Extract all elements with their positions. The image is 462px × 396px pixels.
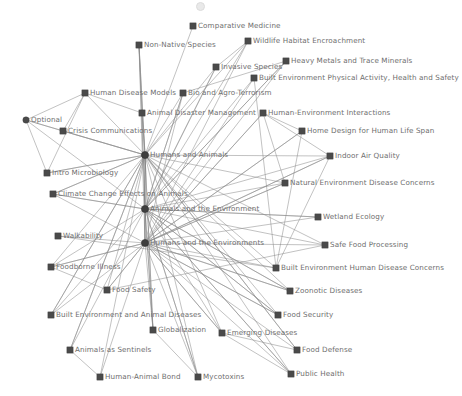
graph-edge: [70, 350, 100, 377]
graph-edge: [63, 131, 145, 155]
graph-node-bio-agro-terrorism[interactable]: [180, 90, 186, 96]
graph-edge: [153, 330, 198, 377]
node-label-human-disease-models: Human Disease Models: [90, 89, 176, 97]
node-label-food-safety: Food Safety: [112, 286, 156, 294]
node-label-humans-and-animals: Humans and Animals: [150, 151, 228, 159]
graph-node-foodborne-illness[interactable]: [48, 264, 54, 270]
node-label-walkability: Walkability: [63, 232, 103, 240]
graph-edge: [276, 156, 330, 268]
graph-node-public-health[interactable]: [288, 371, 294, 377]
graph-node-wildlife-habitat-encroachment[interactable]: [245, 38, 251, 44]
node-label-foodborne-illness: Foodborne Illness: [56, 263, 121, 271]
graph-edge: [145, 155, 290, 291]
graph-edge: [51, 243, 145, 315]
graph-node-human-disease-models[interactable]: [82, 90, 88, 96]
node-label-globalization: Globalization: [158, 326, 206, 334]
node-label-climate-change-effects-animals: Climate Change Effects on Animals: [58, 190, 188, 198]
graph-node-animals-and-the-environment[interactable]: [141, 205, 148, 212]
graph-node-zoonotic-diseases[interactable]: [287, 288, 293, 294]
graph-edge: [145, 243, 222, 333]
node-label-built-env-animal-diseases: Built Environment and Animal Diseases: [56, 311, 201, 319]
graph-node-human-animal-bond[interactable]: [97, 374, 103, 380]
node-label-invasive-species: Invasive Species: [221, 63, 282, 71]
graph-edge: [145, 93, 183, 155]
graph-node-climate-change-effects-animals[interactable]: [50, 191, 56, 197]
graph-edge: [263, 113, 330, 156]
graph-edge: [145, 155, 278, 315]
graph-node-mycotoxins[interactable]: [195, 374, 201, 380]
graph-node-invasive-species[interactable]: [213, 64, 219, 70]
graph-node-emerging-diseases[interactable]: [219, 330, 225, 336]
graph-node-optional[interactable]: [23, 117, 29, 123]
node-label-animals-and-the-environment: Animals and the Environment: [150, 205, 259, 213]
graph-edge: [222, 333, 291, 374]
node-label-mycotoxins: Mycotoxins: [203, 373, 244, 381]
node-label-built-env-physical-activity: Built Environment Physical Activity, Hea…: [259, 74, 459, 82]
node-label-heavy-metals-trace-minerals: Heavy Metals and Trace Minerals: [291, 57, 412, 65]
graph-node-walkability[interactable]: [55, 233, 61, 239]
graph-edge: [276, 131, 302, 268]
graph-node-globalization[interactable]: [150, 327, 156, 333]
node-label-animal-disaster-management: Animal Disaster Management: [147, 109, 256, 117]
node-label-food-security: Food Security: [283, 311, 333, 319]
network-graph-canvas: Comparative MedicineNon-Native SpeciesWi…: [0, 0, 462, 396]
graph-node-humans-and-the-environments[interactable]: [141, 239, 148, 246]
graph-node-food-security[interactable]: [275, 312, 281, 318]
node-label-natural-env-disease-concerns: Natural Environment Disease Concerns: [290, 179, 435, 187]
node-label-comparative-medicine: Comparative Medicine: [198, 22, 281, 30]
node-label-emerging-diseases: Emerging Diseases: [227, 329, 297, 337]
node-label-indoor-air-quality: Indoor Air Quality: [335, 152, 400, 160]
graph-edge: [145, 131, 302, 243]
node-label-optional: Optional: [31, 116, 62, 124]
node-label-safe-food-processing: Safe Food Processing: [330, 241, 408, 249]
node-label-zoonotic-diseases: Zoonotic Diseases: [295, 287, 362, 295]
graph-node-food-safety[interactable]: [104, 287, 110, 293]
node-label-public-health: Public Health: [296, 370, 344, 378]
node-label-humans-and-the-environments: Humans and the Environments: [150, 239, 264, 247]
graph-node-animals-as-sentinels[interactable]: [67, 347, 73, 353]
node-label-food-defense: Food Defense: [302, 346, 352, 354]
graph-node-wetland-ecology[interactable]: [315, 214, 321, 220]
node-label-intro-microbiology: Intro Microbiology: [52, 169, 118, 177]
graph-node-safe-food-processing[interactable]: [322, 242, 328, 248]
graph-node-built-env-animal-diseases[interactable]: [48, 312, 54, 318]
node-label-bio-agro-terrorism: Bio and Agro-Terrorism: [188, 89, 272, 97]
node-label-home-design-human-life-span: Home Design for Human Life Span: [307, 127, 434, 135]
node-label-built-env-human-disease-concerns: Built Environment Human Disease Concerns: [281, 264, 444, 272]
graph-node-intro-microbiology[interactable]: [44, 170, 50, 176]
graph-edge: [145, 243, 278, 315]
graph-edge: [85, 93, 145, 155]
graph-node-built-env-physical-activity[interactable]: [251, 75, 257, 81]
graph-node-animal-disaster-management[interactable]: [139, 110, 145, 116]
node-label-animals-as-sentinels: Animals as Sentinels: [75, 346, 151, 354]
graph-node-indoor-air-quality[interactable]: [327, 153, 333, 159]
graph-node-heavy-metals-trace-minerals[interactable]: [283, 58, 289, 64]
graph-edge: [145, 41, 248, 155]
graph-edge: [145, 209, 278, 315]
node-label-wetland-ecology: Wetland Ecology: [323, 213, 384, 221]
graph-node-comparative-medicine[interactable]: [190, 23, 196, 29]
graph-node-human-environment-interactions[interactable]: [260, 110, 266, 116]
graph-node-food-defense[interactable]: [294, 347, 300, 353]
graph-node-humans-and-animals[interactable]: [141, 151, 148, 158]
graph-edge: [145, 243, 276, 268]
graph-node-home-design-human-life-span[interactable]: [299, 128, 305, 134]
graph-edge: [145, 41, 248, 243]
node-label-human-animal-bond: Human-Animal Bond: [105, 373, 181, 381]
graph-edge: [145, 243, 291, 374]
node-label-human-environment-interactions: Human-Environment Interactions: [268, 109, 390, 117]
graph-node-crisis-communications[interactable]: [60, 128, 66, 134]
graph-edge: [263, 113, 285, 183]
graph-node-non-native-species[interactable]: [136, 42, 142, 48]
node-label-crisis-communications: Crisis Communications: [68, 127, 152, 135]
node-label-wildlife-habitat-encroachment: Wildlife Habitat Encroachment: [253, 37, 365, 45]
graph-node-built-env-human-disease-concerns[interactable]: [273, 265, 279, 271]
node-label-non-native-species: Non-Native Species: [144, 41, 216, 49]
graph-node-natural-env-disease-concerns[interactable]: [282, 180, 288, 186]
